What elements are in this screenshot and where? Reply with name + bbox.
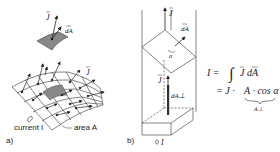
eq-lhs: I = [206, 67, 220, 78]
eq-integral: ∫ [228, 65, 235, 84]
curved-surface-grid [12, 72, 103, 130]
label-dA-tilted: dA [181, 25, 190, 33]
label-J-surface: J [86, 68, 90, 77]
label-J-inner: J [158, 76, 162, 85]
vector-dA-tilted-arrow [175, 37, 185, 46]
label-current: current I [14, 123, 43, 132]
label-dA-small: dA [65, 27, 74, 35]
label-alpha: α [169, 53, 173, 59]
area-leader-line [62, 126, 72, 128]
eq-line2-term: A · cos α [243, 85, 279, 96]
eq-brace-label: A⊥ [253, 106, 263, 112]
label-dA-perp: dA⊥ [171, 92, 185, 100]
eq-line2-prefix: = J · [216, 85, 235, 96]
label-area: area A [74, 123, 98, 132]
angle-arc [168, 50, 175, 52]
highlighted-area-element [43, 85, 67, 100]
panel-label-b: b) [127, 136, 134, 145]
current-density-diagram: J dA J current I [0, 0, 280, 152]
underbrace [245, 98, 275, 104]
current-symbol-icon [156, 140, 159, 144]
eq-integrand: J dA [240, 67, 259, 78]
panel-label-a: a) [6, 136, 13, 145]
current-equation: I = ∫ J dA = J · A · cos α A⊥ [206, 65, 279, 112]
surface-element-dA [37, 16, 68, 50]
label-J-small: J [46, 13, 50, 22]
current-direction-icon [27, 116, 34, 123]
label-J-top: J [169, 9, 173, 18]
label-current-b: I [160, 138, 164, 147]
vector-overbars [46, 8, 258, 75]
